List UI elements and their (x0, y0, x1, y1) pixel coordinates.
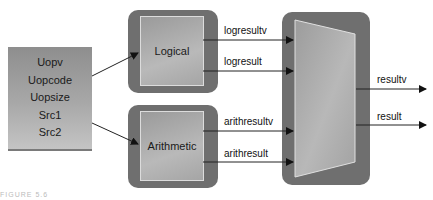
arrow-to-logical (92, 53, 138, 76)
label-arithresult: arithresult (224, 148, 268, 159)
label-arithresultv: arithresultv (224, 116, 273, 127)
label-logresult: logresult (224, 56, 262, 67)
label-resultv: resultv (377, 74, 406, 85)
mux-shape (295, 20, 355, 177)
arrow-to-arithmetic (92, 123, 138, 144)
label-logresultv: logresultv (224, 25, 267, 36)
diagram-wiring (0, 0, 433, 200)
label-result: result (377, 111, 401, 122)
figure-caption: FIGURE 5.6 (0, 191, 48, 198)
